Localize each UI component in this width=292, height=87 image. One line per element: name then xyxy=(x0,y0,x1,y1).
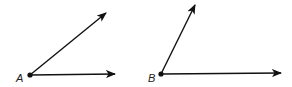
angle-b-lower-ray xyxy=(161,73,281,74)
angle-a: A xyxy=(15,13,115,84)
angle-b: B xyxy=(148,5,281,84)
angle-a-label: A xyxy=(15,72,23,84)
angle-b-label: B xyxy=(148,72,155,84)
angle-b-upper-ray xyxy=(161,5,195,74)
angle-a-upper-ray xyxy=(30,13,106,75)
angles-diagram: A B xyxy=(0,0,292,87)
angle-a-lower-ray xyxy=(30,74,115,75)
angle-b-vertex-dot xyxy=(158,71,163,76)
angle-a-vertex-dot xyxy=(27,72,32,77)
